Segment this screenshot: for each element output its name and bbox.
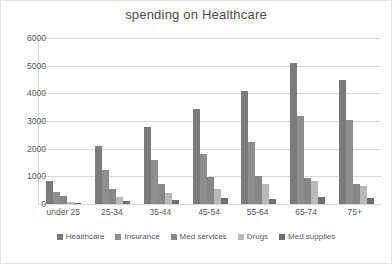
legend-swatch-icon [238,234,244,240]
bar[interactable] [158,184,165,204]
bar-group [332,38,381,204]
legend-swatch-icon [115,234,121,240]
bar[interactable] [248,142,255,204]
bar[interactable] [241,91,248,204]
y-axis-tick-label: 4000 [6,88,46,98]
bar-group [137,38,186,204]
gridline [38,204,381,205]
x-axis-tick-label: under 25 [39,207,88,221]
bar[interactable] [269,199,276,204]
legend-item[interactable]: Drugs [238,232,268,241]
x-axis-tick-label: 35-44 [136,207,185,221]
bar[interactable] [74,203,81,204]
bar[interactable] [95,146,102,204]
legend-swatch-icon [57,234,63,240]
x-axis-tick-label: 55-64 [233,207,282,221]
x-axis-tick-label: 75+ [330,207,379,221]
legend-swatch-icon [279,234,285,240]
bar[interactable] [214,189,221,204]
bar[interactable] [290,63,297,204]
bar[interactable] [60,196,67,204]
plot-area [38,38,381,204]
legend-swatch-icon [171,234,177,240]
x-axis-tick-labels: under 2525-3435-4445-5455-6465-7475+ [39,207,379,221]
y-axis-tick-label: 5000 [6,61,46,71]
bar[interactable] [172,200,179,204]
bar[interactable] [109,189,116,204]
bar[interactable] [165,193,172,204]
x-axis-tick-label: 25-34 [88,207,137,221]
bar[interactable] [346,120,353,204]
bar[interactable] [318,197,325,204]
y-axis-tick-label: 2000 [6,144,46,154]
legend-item[interactable]: Med supplies [279,232,335,241]
bar-groups [39,38,381,204]
bar[interactable] [353,184,360,204]
bar[interactable] [255,176,262,204]
bar-group [88,38,137,204]
bar[interactable] [304,178,311,204]
bar[interactable] [339,80,346,204]
bar[interactable] [311,181,318,204]
x-axis-tick-label: 45-54 [185,207,234,221]
bar[interactable] [53,192,60,204]
legend-label: Drugs [247,232,268,241]
legend-label: Med supplies [288,232,335,241]
y-axis-tick-label: 3000 [6,116,46,126]
bar[interactable] [221,198,228,204]
legend-item[interactable]: Healthcare [57,232,105,241]
legend-item[interactable]: Insurance [115,232,159,241]
chart-legend: HealthcareInsuranceMed servicesDrugsMed … [1,232,391,241]
x-axis-tick-label: 65-74 [282,207,331,221]
legend-item[interactable]: Med services [171,232,227,241]
bar[interactable] [360,186,367,204]
legend-label: Med services [180,232,227,241]
bar[interactable] [123,201,130,204]
bar[interactable] [151,160,158,204]
bar[interactable] [67,202,74,204]
bar-group [186,38,235,204]
bar[interactable] [193,109,200,204]
bar-group [283,38,332,204]
bar[interactable] [297,116,304,204]
bar[interactable] [262,184,269,204]
legend-label: Insurance [124,232,159,241]
bar[interactable] [46,181,53,204]
bar-group [234,38,283,204]
bar[interactable] [200,154,207,204]
y-axis-tick-label: 6000 [6,33,46,43]
bar[interactable] [207,177,214,204]
bar[interactable] [367,198,374,204]
y-axis-tick-label: 1000 [6,171,46,181]
bar[interactable] [116,197,123,204]
legend-label: Healthcare [66,232,105,241]
chart-title: spending on Healthcare [1,7,391,22]
bar[interactable] [144,127,151,204]
bar-group [39,38,88,204]
bar[interactable] [102,170,109,204]
chart-container: spending on Healthcare 01000200030004000… [0,0,392,264]
